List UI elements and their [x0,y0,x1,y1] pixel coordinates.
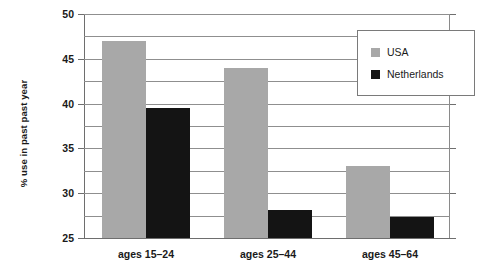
bar-usa-1 [224,68,268,238]
y-tick-left [78,193,84,194]
legend: USA Netherlands [357,30,475,96]
y-tick-right [450,193,456,194]
legend-label-netherlands: Netherlands [387,68,444,80]
y-tick-label: 35 [62,142,74,154]
y-tick-left [78,238,84,239]
y-tick-left [78,104,84,105]
y-tick-label: 50 [62,8,74,20]
y-tick-label: 30 [62,187,74,199]
y-tick-right [450,148,456,149]
y-tick-right [450,104,456,105]
bar-netherlands-2 [390,217,434,238]
x-axis-label-2: ages 45–64 [362,248,418,260]
bar-usa-2 [346,166,390,238]
x-axis-label-1: ages 25–44 [240,248,296,260]
gridline: 50 [84,14,450,15]
y-tick-right [450,238,456,239]
bar-netherlands-1 [268,210,312,238]
y-tick-label: 40 [62,98,74,110]
y-tick-label: 45 [62,53,74,65]
y-tick-label: 25 [62,232,74,244]
gridline: 0 [84,238,450,239]
legend-item-usa: USA [371,46,409,58]
legend-item-netherlands: Netherlands [371,68,444,80]
y-tick-left [78,59,84,60]
bar-chart: % use in past past year 0510152025303540… [0,0,499,273]
bar-usa-0 [102,41,146,238]
legend-label-usa: USA [387,46,409,58]
legend-swatch-usa-icon [371,48,380,57]
x-axis-label-0: ages 15–24 [118,248,174,260]
y-tick-right [450,14,456,15]
y-axis-title: % use in past past year [18,49,29,219]
legend-swatch-netherlands-icon [371,70,380,79]
y-tick-left [78,14,84,15]
bar-netherlands-0 [146,108,190,238]
y-tick-left [78,148,84,149]
